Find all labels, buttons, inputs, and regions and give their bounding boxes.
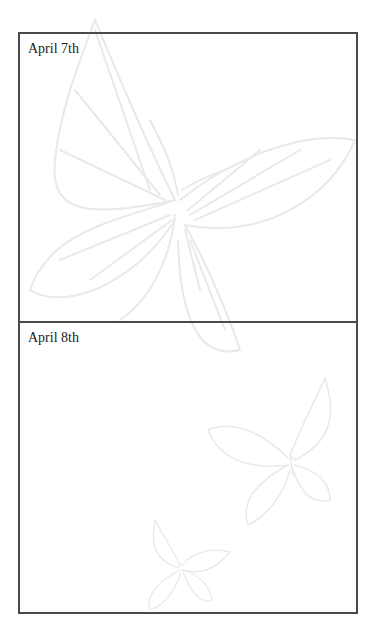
journal-entry-april-7[interactable]: April 7th [20,34,356,323]
journal-frame: April 7th April 8th [18,32,358,614]
journal-entry-april-8[interactable]: April 8th [20,323,356,612]
entry-date-label: April 7th [28,41,79,57]
entry-date-label: April 8th [28,330,79,346]
